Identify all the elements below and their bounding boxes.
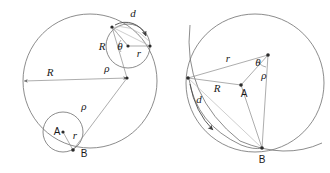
geometry-diagram: R R θ r d ρ ρ A r B: [0, 0, 330, 173]
left-label-point-A: A: [54, 126, 61, 137]
left-label-R-small: R: [98, 40, 106, 52]
right-left-vertex-to-B: [188, 78, 262, 148]
left-upper-circle-center: [126, 44, 129, 47]
right-point-B-marker: [260, 146, 264, 150]
left-label-rho-lower: ρ: [80, 100, 86, 112]
left-label-rho-upper: ρ: [103, 62, 109, 74]
right-label-rho: ρ: [260, 69, 266, 81]
right-outer-arc: [189, 25, 322, 151]
left-label-R-big: R: [46, 66, 54, 78]
right-label-R: R: [213, 82, 221, 94]
right-label-theta: θ: [255, 56, 261, 68]
left-tangency-point-upper: [110, 25, 113, 28]
right-panel: r R d θ ρ A B: [186, 14, 324, 165]
left-label-r-top: r: [137, 47, 142, 59]
left-point-A-marker: [61, 130, 64, 133]
right-label-point-B: B: [259, 154, 266, 165]
left-big-circle-center: [125, 76, 128, 79]
figure-root: R R θ r d ρ ρ A r B: [0, 0, 330, 173]
right-upper-vertex-marker: [266, 53, 270, 57]
right-point-A-marker: [239, 83, 243, 87]
left-upper-rim-point: [148, 44, 151, 47]
left-lower-r-radius: [63, 132, 73, 150]
right-label-d: d: [196, 93, 202, 105]
left-R-measure-line: [24, 78, 127, 81]
right-fixed-circle: [186, 14, 324, 152]
left-point-B-marker: [71, 148, 75, 152]
right-label-point-A: A: [241, 88, 248, 99]
left-rho-upper-line: [112, 27, 127, 78]
left-rho-lower-line: [73, 78, 127, 150]
right-label-r: r: [226, 52, 231, 64]
left-panel: R R θ r d ρ ρ A r B: [23, 7, 157, 159]
left-label-theta: θ: [117, 40, 123, 52]
left-label-point-B: B: [81, 148, 88, 159]
right-left-vertex-marker: [186, 76, 190, 80]
left-label-r-bottom: r: [73, 129, 78, 141]
left-label-d: d: [130, 7, 136, 19]
